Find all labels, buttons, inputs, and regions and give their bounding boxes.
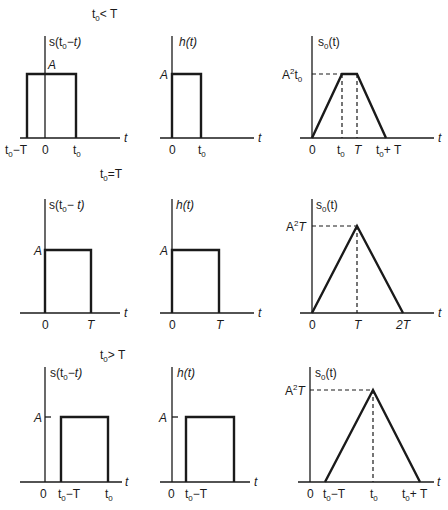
- panel-h-row3: h(t) A t 0 t0−T: [158, 366, 258, 503]
- tick-2T: 2T: [395, 318, 412, 332]
- ylabel-s-t0-minus-t: s(t0− t): [49, 198, 84, 214]
- amp-label-A: A: [158, 411, 167, 425]
- x-axis-label-t: t: [125, 475, 129, 489]
- tick-t0: t0: [370, 487, 378, 503]
- x-axis-label-t: t: [124, 131, 128, 145]
- case-label-t0-gt-T: t0> T: [100, 348, 126, 364]
- tick-0: 0: [307, 487, 314, 501]
- tick-T: T: [216, 318, 225, 332]
- tick-t0: t0: [198, 143, 206, 159]
- ylabel-s0-t: s0(t): [316, 198, 338, 214]
- peak-label-A2T: A2T: [286, 219, 307, 234]
- rect-pulse: [61, 417, 108, 482]
- tick-T: T: [354, 143, 363, 157]
- panel-s-reversed-row1: s(t0−t) A t t0−T 0 t0: [5, 35, 128, 159]
- tick-0: 0: [169, 318, 176, 332]
- tick-t0-plus-T: t0+ T: [402, 487, 428, 503]
- panel-s-reversed-row2: s(t0− t) A t 0 T: [20, 198, 128, 332]
- x-axis-label-t: t: [258, 306, 262, 320]
- rect-pulse: [172, 250, 219, 313]
- amp-label-A: A: [159, 68, 168, 82]
- tick-t0-minus-T: t0−T: [323, 487, 346, 503]
- tick-t0-minus-T: t0−T: [185, 487, 208, 503]
- tick-0: 0: [168, 487, 175, 501]
- x-axis-label-t: t: [254, 475, 258, 489]
- panel-s0-row1: s0(t) A2t0 t 0 t0 T t0+ T: [282, 35, 442, 159]
- x-axis-label-t: t: [438, 306, 442, 320]
- tick-t0-minus-T: t0−T: [5, 143, 28, 159]
- amp-label-A: A: [47, 58, 56, 72]
- rect-pulse: [27, 74, 76, 138]
- x-axis-label-t: t: [437, 475, 441, 489]
- peak-label-A2T: A2T: [285, 383, 306, 398]
- trapezoid-output: [312, 74, 386, 138]
- amp-label-A: A: [159, 244, 168, 258]
- rect-pulse: [45, 250, 91, 313]
- panel-s0-row3: s0(t) A2T t 0 t0−T t0 t0+ T: [285, 366, 441, 503]
- panel-h-row2: h(t) A t 0 T: [159, 198, 262, 332]
- tick-0: 0: [309, 318, 316, 332]
- tick-0: 0: [40, 487, 47, 501]
- tick-0: 0: [309, 143, 316, 157]
- ylabel-h-t: h(t): [177, 366, 195, 380]
- case-label-t0-eq-T: t0=T: [100, 167, 123, 183]
- row-case-t0-less-than-T: t0< T s(t0−t) A t t0−T 0 t0 h(t) A t 0 t…: [5, 7, 442, 159]
- tick-0: 0: [42, 318, 49, 332]
- rect-pulse: [186, 417, 234, 482]
- ylabel-h-t: h(t): [179, 35, 197, 49]
- ylabel-s0-t: s0(t): [318, 35, 340, 51]
- case-label-t0-lt-T: t0< T: [92, 7, 118, 23]
- ylabel-s0-t: s0(t): [315, 366, 337, 382]
- matched-filter-diagram: t0< T s(t0−t) A t t0−T 0 t0 h(t) A t 0 t…: [0, 0, 448, 510]
- x-axis-label-t: t: [258, 131, 262, 145]
- row-case-t0-greater-than-T: t0> T s(t0−t) A t 0 t0−T t0 h(t) A t 0 t…: [20, 348, 441, 503]
- x-axis-label-t: t: [438, 131, 442, 145]
- tick-t0-plus-T: t0+ T: [376, 143, 402, 159]
- amp-label-A: A: [33, 244, 42, 258]
- panel-s0-row2: s0(t) A2T t 0 T 2T: [286, 198, 442, 332]
- x-axis-label-t: t: [124, 306, 128, 320]
- ylabel-h-t: h(t): [176, 198, 194, 212]
- amp-label-A: A: [33, 411, 42, 425]
- tick-T: T: [87, 318, 96, 332]
- tick-0: 0: [169, 143, 176, 157]
- panel-h-row1: h(t) A t 0 t0: [159, 35, 262, 159]
- tick-T: T: [354, 318, 363, 332]
- peak-label-A2t0: A2t0: [282, 67, 303, 84]
- tick-t0: t0: [73, 143, 81, 159]
- tick-t0: t0: [337, 143, 345, 159]
- row-case-t0-equals-T: t0=T s(t0− t) A t 0 T h(t) A t 0 T: [20, 167, 442, 332]
- ylabel-s-t0-minus-t: s(t0−t): [49, 35, 81, 51]
- tick-0: 0: [42, 143, 49, 157]
- ylabel-s-t0-minus-t: s(t0−t): [50, 366, 82, 382]
- tick-t0-minus-T: t0−T: [58, 487, 81, 503]
- panel-s-reversed-row3: s(t0−t) A t 0 t0−T t0: [20, 366, 129, 503]
- tick-t0: t0: [105, 487, 113, 503]
- rect-pulse: [172, 74, 201, 138]
